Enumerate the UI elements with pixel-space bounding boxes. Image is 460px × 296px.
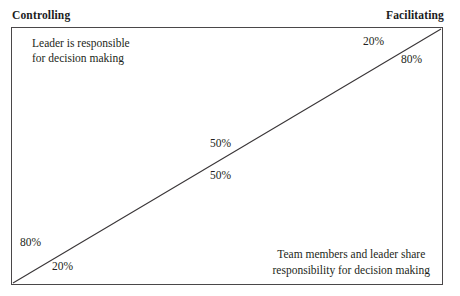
blurb-shared-responsibility: Team members and leader share responsibi… (273, 247, 430, 278)
diagram-frame: Leader is responsible for decision makin… (11, 27, 443, 285)
blurb-leader-responsible: Leader is responsible for decision makin… (32, 36, 130, 67)
pole-label-facilitating: Facilitating (386, 10, 444, 22)
annotation-middle-below: 50% (210, 170, 231, 182)
diagram-canvas: Controlling Facilitating Leader is respo… (0, 0, 460, 296)
annotation-top-right-below: 80% (401, 54, 422, 66)
annotation-middle-above: 50% (210, 138, 231, 150)
annotation-bottom-left-below: 20% (52, 261, 73, 273)
annotation-top-right-above: 20% (363, 36, 384, 48)
annotation-bottom-left-above: 80% (20, 237, 41, 249)
pole-label-controlling: Controlling (12, 10, 70, 22)
